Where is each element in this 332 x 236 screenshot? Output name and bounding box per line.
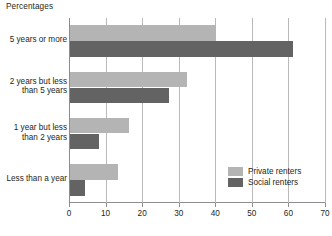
x-axis-tick [142,203,143,207]
bar-private [70,118,129,134]
x-axis-tick [179,203,180,207]
category-label-line: than 2 years [1,133,67,143]
x-axis-tick [252,203,253,207]
legend-label: Private renters [248,167,301,176]
chart-legend: Private rentersSocial renters [228,166,328,188]
x-axis-tick-label: 60 [284,209,293,218]
bar-chart: Percentages 5 years or more2 years but l… [0,0,332,236]
bar-social [70,41,293,57]
bar-private [70,72,187,88]
category-label-line: 1 year but less [1,123,67,133]
x-axis-tick-label: 40 [211,209,220,218]
bar-social [70,180,85,196]
bar-private [70,164,118,180]
legend-swatch-icon [228,178,243,187]
x-axis-tick-label: 70 [320,209,329,218]
x-axis-tick [325,203,326,207]
legend-item: Private renters [228,166,328,177]
x-axis-tick-label: 20 [138,209,147,218]
x-axis-tick-label: 10 [101,209,110,218]
category-label: 1 year but lessthan 2 years [1,123,67,142]
bar-social [70,88,169,104]
category-label-line: than 5 years [1,86,67,96]
legend-swatch-icon [228,167,243,176]
x-axis-tick-label: 30 [174,209,183,218]
category-label: Less than a year [1,174,67,184]
x-axis-tick [106,203,107,207]
category-label-line: Less than a year [1,174,67,184]
category-label: 2 years but lessthan 5 years [1,77,67,96]
category-label: 5 years or more [1,35,67,45]
bar-social [70,134,99,150]
x-axis-tick [288,203,289,207]
legend-label: Social renters [248,178,298,187]
x-axis-tick-label: 0 [67,209,72,218]
bar-private [70,25,216,41]
legend-item: Social renters [228,177,328,188]
x-axis-tick [215,203,216,207]
category-label-line: 2 years but less [1,77,67,87]
x-axis-tick [69,203,70,207]
x-axis-line [69,202,325,203]
x-axis-tick-label: 50 [247,209,256,218]
category-axis-labels: 5 years or more2 years but lessthan 5 ye… [0,0,67,236]
category-label-line: 5 years or more [1,35,67,45]
